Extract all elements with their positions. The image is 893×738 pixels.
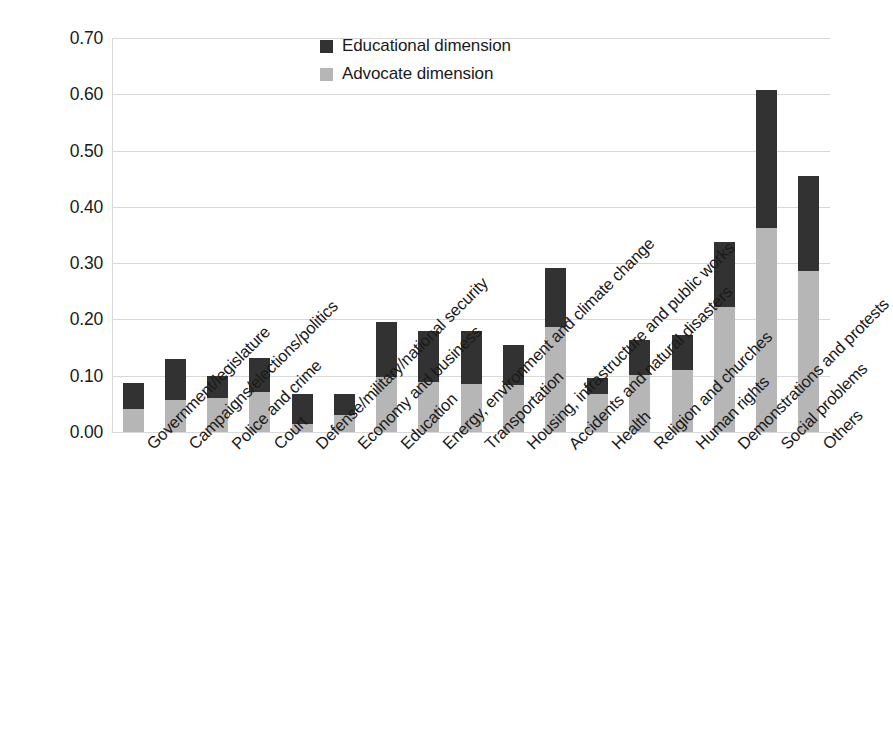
y-axis-tick-label: 0.00 <box>70 422 112 443</box>
bar-segment-educational[interactable] <box>798 176 819 271</box>
bar-segment-educational[interactable] <box>756 90 777 228</box>
y-axis-tick-label: 0.10 <box>70 365 112 386</box>
bar-group[interactable] <box>334 38 355 432</box>
y-axis-tick-label: 0.70 <box>70 28 112 49</box>
y-axis-tick-label: 0.40 <box>70 196 112 217</box>
bar-segment-advocate[interactable] <box>123 409 144 432</box>
bar-segment-educational[interactable] <box>165 359 186 400</box>
y-axis-tick-label: 0.30 <box>70 253 112 274</box>
bar-segment-educational[interactable] <box>123 383 144 409</box>
y-axis-tick-label: 0.20 <box>70 309 112 330</box>
bar-group[interactable] <box>672 38 693 432</box>
bar-group[interactable] <box>165 38 186 432</box>
bar-group[interactable] <box>123 38 144 432</box>
x-axis-tick-labels: Government/legislatureCampaigns/election… <box>112 432 830 732</box>
bar-group[interactable] <box>461 38 482 432</box>
y-axis-tick-label: 0.50 <box>70 140 112 161</box>
y-axis-tick-label: 0.60 <box>70 84 112 105</box>
